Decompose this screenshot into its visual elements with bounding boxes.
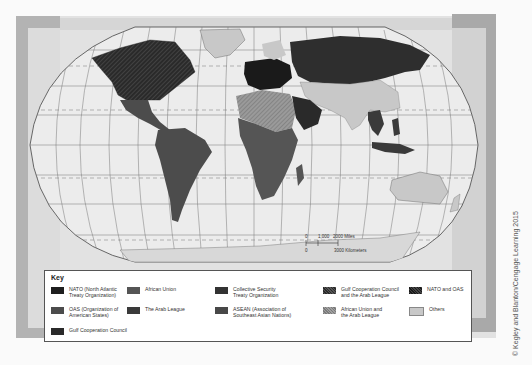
copyright-credit: © Kegley and Blanton/Cengage Learning 20… [512,211,519,356]
legend-swatch [323,287,336,294]
legend-swatch [51,307,64,314]
legend-key: Key NATO (North Atlantic Treaty Organiza… [44,270,472,342]
scale-zero-top: 0 [305,234,308,239]
legend-title: Key [51,274,64,281]
legend-item-gcc-arab-league: Gulf Cooperation Council and the Arab Le… [323,286,399,299]
scale-miles-label: 2000 Miles [333,234,355,239]
legend-swatch [409,307,424,316]
legend-item-au-arab-league: African Union and the Arab League [323,306,382,319]
legend-swatch [409,287,422,294]
legend-swatch [127,307,140,314]
legend-item-gcc: Gulf Cooperation Council [51,327,127,335]
legend-swatch [51,287,64,294]
legend-swatch [215,287,228,294]
legend-item-asean: ASEAN (Association of Southeast Asian Na… [215,306,291,319]
legend-swatch [215,307,228,314]
legend-item-oas: OAS (Organization of American States) [51,306,118,319]
legend-item-nato-oas: NATO and OAS [409,286,463,294]
legend-item-nato: NATO (North Atlantic Treaty Organization… [51,286,117,299]
legend-item-arab-league: The Arab League [127,306,185,314]
scale-km-label: 3000 Kilometers [334,248,367,253]
scale-zero-bottom: 0 [305,248,308,253]
legend-item-african-union: African Union [127,286,176,294]
scale-miles-mid: 1,000 [318,234,329,239]
legend-item-csto: Collective Security Treaty Organization [215,286,278,299]
legend-swatch [51,328,64,335]
legend-swatch [323,307,336,314]
legend-item-others: Others [409,306,445,316]
legend-swatch [127,287,140,294]
